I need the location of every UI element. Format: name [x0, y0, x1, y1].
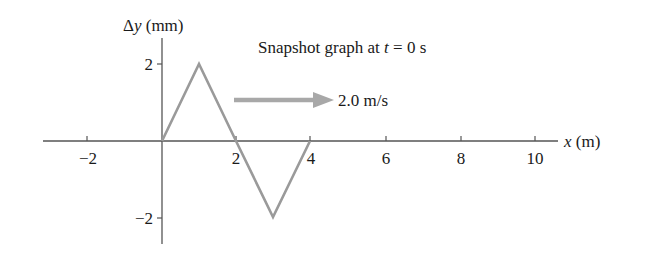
y-tick-label: −2 [135, 209, 153, 228]
chart-title: Snapshot graph at t = 0 s [258, 38, 426, 57]
y-tick-label: 2 [145, 55, 154, 74]
snapshot-graph: −2 2 4 6 8 10 2 −2 2.0 m/s Snapshot grap… [0, 0, 646, 257]
x-ticks [87, 136, 535, 141]
velocity-label: 2.0 m/s [338, 91, 388, 110]
x-tick-label: 10 [527, 149, 544, 168]
x-axis-label: x (m) [563, 132, 600, 151]
velocity-arrow-icon [234, 92, 334, 108]
x-tick-label: 6 [382, 149, 391, 168]
x-tick-label: 2 [232, 149, 241, 168]
y-axis-label: Δy (mm) [123, 16, 184, 35]
x-tick-label: −2 [79, 149, 97, 168]
x-tick-label: 8 [457, 149, 466, 168]
x-tick-label: 4 [307, 149, 316, 168]
